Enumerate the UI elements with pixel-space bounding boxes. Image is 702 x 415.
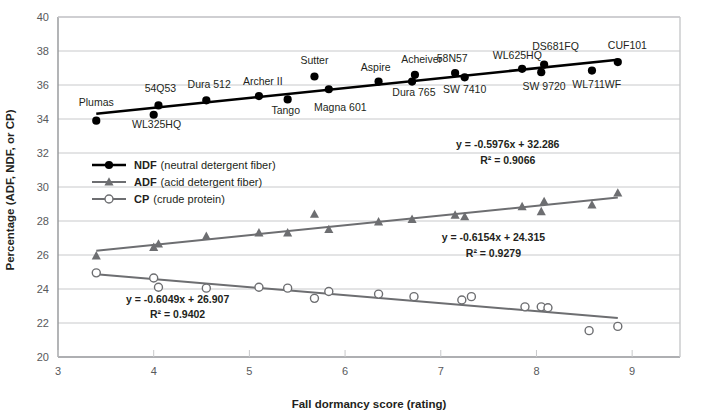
data-point-ndf-14 (518, 65, 526, 73)
legend-marker-ndf (105, 161, 113, 169)
point-label-tango: Tango (271, 104, 300, 116)
legend-key-cp: CP (134, 193, 149, 205)
y-tick-label-38: 38 (37, 45, 49, 57)
y-tick-label-30: 30 (37, 181, 49, 193)
legend-text-cp: CP(crude protein) (134, 193, 225, 205)
point-label-dura-765: Dura 765 (392, 86, 435, 98)
point-label-sutter: Sutter (300, 54, 329, 66)
legend-key-ndf: NDF (134, 159, 157, 171)
adf-equation: y = -0.6154x + 24.315 (442, 231, 545, 243)
point-label-ds681fq: DS681FQ (532, 40, 579, 52)
data-point-ndf-13 (537, 68, 545, 76)
point-label-54q53: 54Q53 (145, 82, 177, 94)
legend-marker-cp (105, 195, 113, 203)
y-tick-label-26: 26 (37, 249, 49, 261)
legend-text-ndf: NDF(neutral detergent fiber) (134, 159, 276, 171)
x-tick-label-6: 6 (342, 365, 348, 377)
y-axis-title: Percentage (ADF, NDF, or CP) (4, 109, 16, 270)
point-label-wl325hq: WL325HQ (132, 118, 181, 130)
data-point-cp-0 (92, 269, 100, 277)
x-tick-label-3: 3 (55, 365, 61, 377)
point-label-magna-601: Magna 601 (314, 101, 367, 113)
point-label-sw-9720: SW 9720 (523, 80, 566, 92)
data-point-cp-12 (521, 303, 529, 311)
data-point-cp-4 (255, 283, 263, 291)
point-label-wl711wf: WL711WF (572, 78, 621, 90)
y-tick-label-40: 40 (37, 11, 49, 23)
point-label-58n57: 58N57 (437, 52, 468, 64)
data-point-ndf-4 (255, 92, 263, 100)
data-point-ndf-0 (92, 117, 100, 125)
data-point-cp-8 (375, 290, 383, 298)
legend-desc-ndf: (neutral detergent fiber) (161, 159, 276, 171)
y-tick-label-28: 28 (37, 215, 49, 227)
data-point-ndf-7 (325, 85, 333, 93)
chart-container: 2022242628303234363840 3456789 PlumasWL3… (0, 0, 702, 415)
data-point-cp-11 (467, 293, 475, 301)
data-point-cp-16 (614, 322, 622, 330)
x-tick-label-8: 8 (533, 365, 539, 377)
cp-r2: R² = 0.9402 (150, 308, 205, 320)
data-point-ndf-16 (588, 66, 596, 74)
fall-dormancy-forage-quality-chart: 2022242628303234363840 3456789 PlumasWL3… (0, 0, 702, 415)
data-point-cp-2 (154, 283, 162, 291)
point-label-dura-512: Dura 512 (188, 78, 231, 90)
x-axis-title: Fall dormancy score (rating) (292, 398, 447, 410)
data-point-ndf-12 (451, 69, 459, 77)
data-point-cp-15 (585, 327, 593, 335)
y-tick-label-36: 36 (37, 79, 49, 91)
point-label-aspire: Aspire (361, 61, 391, 73)
y-tick-label-32: 32 (37, 147, 49, 159)
y-tick-label-24: 24 (37, 283, 49, 295)
data-point-ndf-17 (614, 58, 622, 66)
data-point-ndf-11 (461, 73, 469, 81)
legend-text-adf: ADF(acid detergent fiber) (134, 176, 262, 188)
point-label-archer-ii: Archer II (243, 75, 283, 87)
y-tick-label-34: 34 (37, 113, 49, 125)
ndf-equation: y = -0.5976x + 32.286 (456, 138, 559, 150)
data-point-ndf-6 (310, 72, 318, 80)
y-tick-label-22: 22 (37, 317, 49, 329)
data-point-cp-10 (458, 296, 466, 304)
x-tick-label-7: 7 (438, 365, 444, 377)
data-point-ndf-15 (540, 61, 548, 69)
data-point-ndf-5 (284, 95, 292, 103)
point-label-cuf101: CUF101 (608, 39, 647, 51)
ndf-r2: R² = 0.9066 (480, 154, 535, 166)
legend-desc-adf: (acid detergent fiber) (161, 176, 263, 188)
data-point-ndf-3 (202, 96, 210, 104)
data-point-ndf-10 (411, 71, 419, 79)
data-point-cp-14 (544, 304, 552, 312)
data-point-cp-1 (150, 274, 158, 282)
data-point-ndf-2 (154, 101, 162, 109)
cp-equation: y = -0.6049x + 26.907 (126, 293, 229, 305)
legend-desc-cp: (crude protein) (153, 193, 225, 205)
data-point-cp-3 (202, 284, 210, 292)
x-tick-label-5: 5 (246, 365, 252, 377)
point-label-sw-7410: SW 7410 (443, 83, 486, 95)
data-point-cp-7 (325, 288, 333, 296)
point-label-plumas: Plumas (79, 96, 114, 108)
adf-r2: R² = 0.9279 (466, 247, 521, 259)
x-tick-label-4: 4 (151, 365, 157, 377)
data-point-cp-5 (284, 284, 292, 292)
data-point-cp-9 (410, 293, 418, 301)
data-point-cp-6 (310, 294, 318, 302)
legend-key-adf: ADF (134, 176, 157, 188)
x-tick-label-9: 9 (629, 365, 635, 377)
data-point-ndf-8 (374, 78, 382, 86)
y-tick-label-20: 20 (37, 351, 49, 363)
